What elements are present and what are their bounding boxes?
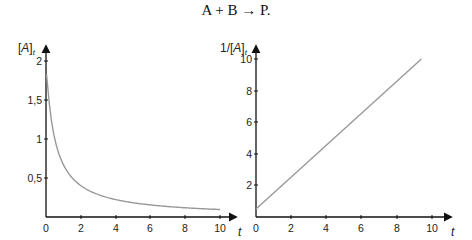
right-x-tick-label: 8: [394, 222, 400, 234]
left-y-axis-label: [A]t: [18, 41, 36, 57]
left-chart-concentration-vs-time: 0 2 4 6 8 10 0,5 1 1,5 2 [A]t t: [18, 41, 242, 239]
left-x-ticks: 0 2 4 6 8 10: [43, 215, 226, 234]
right-x-axis-label: t: [451, 225, 455, 239]
right-y-ticks: 2 4 6 8 10: [240, 53, 258, 191]
left-curve-series: [47, 74, 221, 209]
right-x-tick-label: 2: [288, 222, 294, 234]
left-y-tick-label: 2: [36, 55, 42, 67]
right-y-tick-label: 8: [246, 85, 252, 97]
left-x-axis-label: t: [238, 225, 242, 239]
left-x-tick-label: 10: [214, 222, 226, 234]
right-x-tick-label: 10: [426, 222, 438, 234]
right-y-tick-label: 6: [246, 116, 252, 128]
left-x-tick-label: 6: [147, 222, 153, 234]
left-y-ticks: 0,5 1 1,5 2: [27, 55, 48, 184]
right-x-ticks: 0 2 4 6 8 10: [253, 215, 438, 234]
right-y-tick-label: 2: [246, 179, 252, 191]
charts-canvas: 0 2 4 6 8 10 0,5 1 1,5 2 [A]t t: [0, 0, 472, 240]
right-chart-inverse-concentration-vs-time: 0 2 4 6 8 10 2 4 6 8 10 1/[A]t t: [220, 41, 455, 239]
right-x-tick-label: 4: [323, 222, 329, 234]
right-x-tick-label: 6: [358, 222, 364, 234]
left-x-tick-label: 4: [113, 222, 119, 234]
left-y-tick-label: 1,5: [27, 94, 42, 106]
left-y-tick-label: 1: [36, 133, 42, 145]
left-x-tick-label: 8: [182, 222, 188, 234]
right-y-tick-label: 4: [246, 148, 252, 160]
right-line-series: [256, 59, 421, 209]
left-y-tick-label: 0,5: [27, 172, 42, 184]
left-x-tick-label: 2: [78, 222, 84, 234]
right-y-axis-label: 1/[A]t: [220, 41, 248, 57]
right-x-tick-label: 0: [253, 222, 259, 234]
left-x-tick-label: 0: [43, 222, 49, 234]
